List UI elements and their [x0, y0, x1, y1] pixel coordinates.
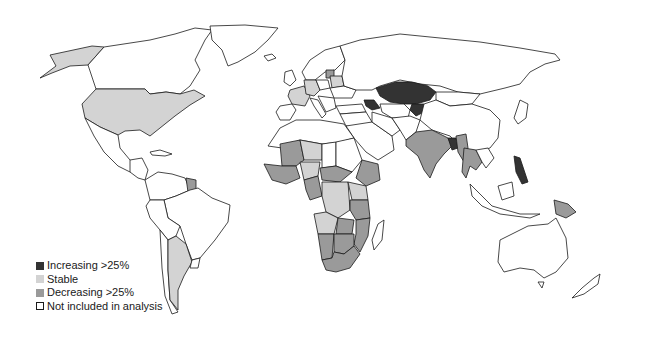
legend-swatch-stable: [36, 275, 44, 283]
region-mozambique-malawi: [354, 218, 370, 252]
region-canada: [88, 28, 212, 94]
legend-swatch-decreasing: [36, 289, 44, 297]
legend-swatch-not-included: [36, 302, 44, 310]
region-japan: [514, 100, 528, 124]
region-niger: [300, 140, 322, 160]
region-cameroon-gabon: [304, 176, 322, 200]
region-tanzania: [350, 200, 370, 220]
region-ethiopia: [356, 160, 380, 186]
region-russia: [340, 34, 560, 94]
region-caucasus: [364, 100, 380, 110]
region-madagascar: [372, 220, 384, 250]
map-legend: Increasing >25% Stable Decreasing >25% N…: [36, 259, 163, 313]
region-scandinavia: [302, 46, 345, 80]
region-iceland: [264, 54, 276, 61]
legend-label-decreasing: Decreasing >25%: [47, 286, 134, 300]
legend-label-increasing: Increasing >25%: [47, 259, 129, 273]
region-new-zealand: [572, 274, 600, 298]
legend-item-stable: Stable: [36, 273, 163, 287]
region-tasmania: [538, 282, 544, 288]
legend-item-decreasing: Decreasing >25%: [36, 286, 163, 300]
legend-swatch-increasing: [36, 262, 44, 270]
legend-item-not-included: Not included in analysis: [36, 300, 163, 314]
region-central-america: [130, 158, 148, 180]
region-west-africa: [264, 164, 300, 184]
region-namibia: [318, 234, 334, 260]
region-malaysia-borneo: [498, 182, 514, 200]
region-kazakhstan: [376, 82, 436, 104]
region-chad: [322, 142, 336, 168]
region-india: [406, 130, 452, 178]
region-philippines: [514, 156, 528, 184]
legend-label-stable: Stable: [47, 273, 78, 287]
region-zambia: [336, 218, 354, 234]
region-papua-new-guinea: [554, 200, 576, 218]
region-iberia: [276, 104, 296, 120]
region-australia: [498, 218, 568, 278]
region-cuba: [150, 150, 172, 156]
legend-item-increasing: Increasing >25%: [36, 259, 163, 273]
legend-label-not-included: Not included in analysis: [47, 300, 163, 314]
region-uk: [284, 70, 296, 86]
